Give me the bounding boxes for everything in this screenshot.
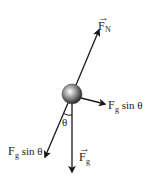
theta-label: θ: [62, 116, 67, 128]
svg-text:sin θ: sin θ: [19, 145, 43, 157]
svg-text:g: g: [86, 157, 90, 166]
parallel-component-label: F g sin θ: [108, 98, 143, 114]
parallel-component-arrow: [81, 98, 105, 104]
free-body-diagram: → F N F g sin θ → F g F g sin θ θ: [0, 0, 148, 179]
normal-force-label: → F N: [98, 11, 111, 34]
normal-force-arrow: [76, 30, 99, 85]
perpendicular-component-label: F g sin θ: [8, 144, 43, 160]
svg-text:sin θ: sin θ: [119, 99, 143, 111]
perpendicular-component-arrow: [45, 103, 68, 157]
ball: [62, 84, 82, 104]
svg-text:F: F: [8, 144, 15, 158]
gravity-label: → F g: [79, 142, 90, 166]
svg-text:F: F: [108, 98, 115, 112]
svg-text:F: F: [98, 19, 105, 33]
svg-text:F: F: [79, 150, 86, 164]
svg-text:N: N: [105, 25, 111, 34]
